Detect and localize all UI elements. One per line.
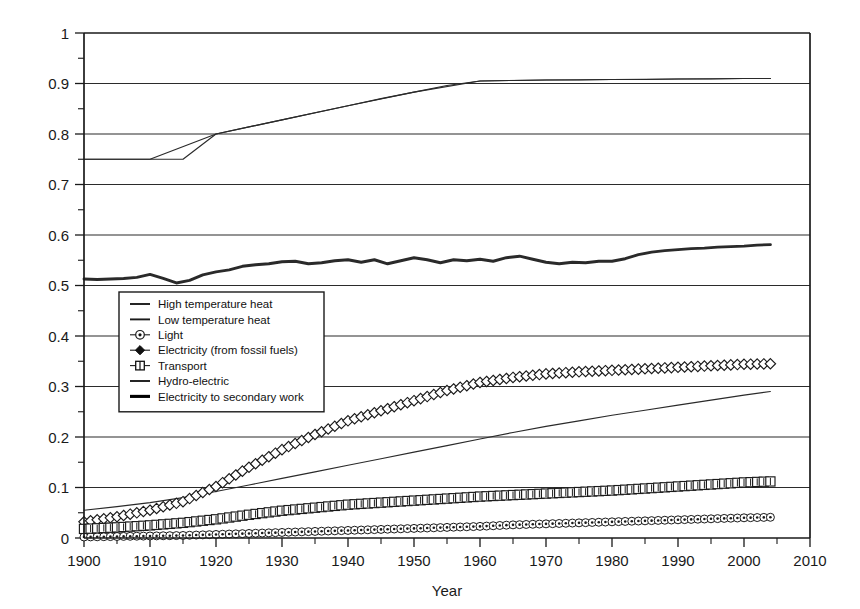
legend-item-label: Light: [158, 329, 184, 341]
line-chart: 00.10.20.30.40.50.60.70.80.91 1900191019…: [0, 0, 860, 609]
y-tick-label: 0.9: [48, 75, 69, 92]
chart-container: 00.10.20.30.40.50.60.70.80.91 1900191019…: [0, 0, 860, 609]
x-tick-label: 1990: [661, 552, 694, 569]
legend-item-label: Electricity to secondary work: [158, 391, 304, 403]
y-tick-label: 0.1: [48, 479, 69, 496]
y-tick-label: 0.2: [48, 429, 69, 446]
legend-item-label: High temperature heat: [158, 298, 273, 310]
x-tick-label: 1960: [463, 552, 496, 569]
x-tick-label: 1980: [595, 552, 628, 569]
x-tick-label: 1920: [199, 552, 232, 569]
y-tick-label: 1: [61, 25, 69, 42]
x-tick-label: 1910: [133, 552, 166, 569]
y-tick-label: 0.8: [48, 126, 69, 143]
y-tick-label: 0.7: [48, 176, 69, 193]
chart-legend: High temperature heatLow temperature hea…: [119, 292, 324, 412]
legend-item[interactable]: Transport: [130, 360, 208, 372]
data-point-marker: [766, 477, 775, 486]
y-tick-label: 0.3: [48, 378, 69, 395]
x-axis-title: Year: [432, 582, 462, 599]
x-axis-title-text: Year: [432, 582, 462, 599]
y-tick-label: 0.5: [48, 277, 69, 294]
legend-item-label: Low temperature heat: [158, 314, 271, 326]
legend-item-label: Transport: [158, 360, 208, 372]
data-point-marker: [766, 513, 774, 521]
legend-item-label: Hydro-electric: [158, 375, 229, 387]
x-tick-label: 1970: [529, 552, 562, 569]
y-tick-label: 0.4: [48, 328, 69, 345]
x-tick-label: 2010: [793, 552, 826, 569]
x-tick-label: 1940: [331, 552, 364, 569]
x-tick-label: 2000: [727, 552, 760, 569]
x-tick-label: 1930: [265, 552, 298, 569]
legend-item-label: Electricity (from fossil fuels): [158, 344, 298, 356]
x-tick-label: 1950: [397, 552, 430, 569]
y-tick-label: 0.6: [48, 227, 69, 244]
x-tick-label: 1900: [67, 552, 100, 569]
y-tick-label: 0: [61, 530, 69, 547]
